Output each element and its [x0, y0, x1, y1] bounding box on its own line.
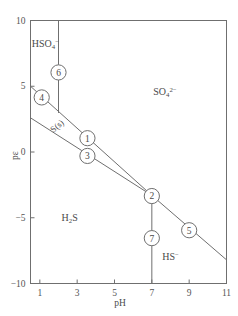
y-axis-title: pε [10, 151, 20, 160]
y-tick-label: −10 [11, 279, 26, 289]
species-label-so4: SO42− [153, 86, 176, 97]
marker-label-7: 7 [149, 234, 154, 244]
species-label-hs: HS− [162, 250, 179, 261]
y-tick-label: 5 [21, 81, 26, 91]
marker-4: 4 [34, 90, 49, 105]
marker-label-4: 4 [39, 93, 44, 103]
y-tick-label: 10 [16, 16, 26, 26]
x-tick-label: 7 [149, 288, 154, 298]
y-tick-label: 0 [21, 147, 26, 157]
x-tick-label: 3 [75, 288, 80, 298]
marker-6: 6 [51, 65, 66, 80]
marker-5: 5 [182, 223, 197, 238]
marker-7: 7 [144, 231, 159, 246]
species-label-h2s: H2S [62, 212, 78, 223]
marker-label-5: 5 [187, 226, 192, 236]
marker-label-1: 1 [85, 134, 90, 144]
x-tick-label: 11 [222, 288, 231, 298]
x-tick-label: 9 [187, 288, 192, 298]
x-axis-title: pH [114, 298, 126, 308]
marker-2: 2 [144, 188, 159, 203]
x-tick-label: 5 [112, 288, 117, 298]
species-label-hso4: HSO4− [32, 38, 59, 49]
marker-label-2: 2 [149, 191, 154, 201]
plot-frame [31, 21, 227, 284]
marker-3: 3 [80, 148, 95, 163]
marker-label-3: 3 [85, 151, 90, 161]
marker-label-6: 6 [56, 68, 61, 78]
y-tick-label: −5 [15, 213, 25, 223]
marker-1: 1 [80, 131, 95, 146]
line-upper-so4-s-hs [31, 86, 227, 260]
x-tick-label: 1 [37, 288, 42, 298]
pe-ph-diagram-figure: 1234567 pε pH 13579111050−5−10 HSO4−SO42… [0, 0, 238, 316]
